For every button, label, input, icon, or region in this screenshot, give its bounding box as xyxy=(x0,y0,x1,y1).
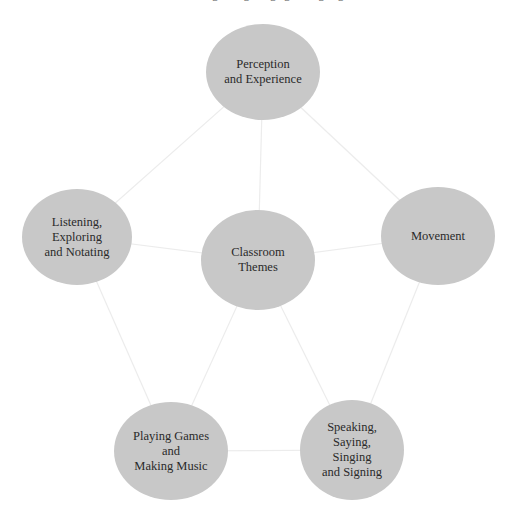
node-listening-exploring-notating: Listening, Exploring and Notating xyxy=(22,189,132,285)
node-label: Classroom Themes xyxy=(231,245,284,275)
node-label: Movement xyxy=(411,229,465,244)
concept-diagram: Perception and Experience Listening, Exp… xyxy=(0,0,512,519)
node-perception-and-experience: Perception and Experience xyxy=(206,24,320,120)
node-label: Perception and Experience xyxy=(224,57,301,87)
node-playing-games-making-music: Playing Games and Making Music xyxy=(114,402,228,500)
node-movement: Movement xyxy=(381,187,495,285)
node-label: Speaking, Saying, Singing and Signing xyxy=(322,420,382,480)
node-classroom-themes: Classroom Themes xyxy=(201,210,315,310)
node-speaking-saying-singing-signing: Speaking, Saying, Singing and Signing xyxy=(300,400,404,500)
node-label: Listening, Exploring and Notating xyxy=(45,215,110,260)
node-label: Playing Games and Making Music xyxy=(133,429,209,474)
